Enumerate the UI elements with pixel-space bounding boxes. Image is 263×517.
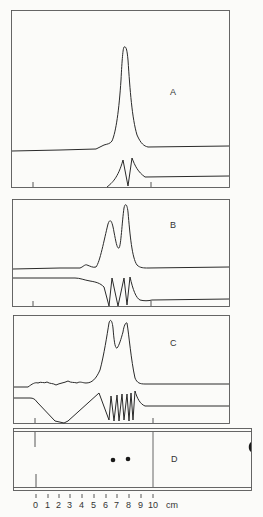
axis-label-4: 4 (79, 500, 84, 510)
axis-label-8: 8 (126, 500, 131, 510)
panel-b: B (13, 200, 230, 307)
axis-label-1: 1 (45, 500, 50, 510)
axis-label-2: 2 (56, 500, 61, 510)
panel-a-density-trace (12, 47, 229, 151)
chromatogram-figure: A B C D (0, 0, 263, 517)
panel-b-density-trace (13, 205, 229, 269)
panel-a-frame (12, 11, 230, 188)
panel-c-frame (14, 316, 230, 424)
edge-mark (249, 442, 251, 452)
panel-a: A (12, 11, 230, 188)
panel-b-label: B (170, 220, 176, 230)
axis-unit-label: cm (166, 500, 178, 510)
panel-a-derivative-trace (107, 158, 229, 187)
axis-label-9: 9 (138, 500, 143, 510)
axis-label-10: 10 (148, 500, 158, 510)
spot-1 (111, 458, 116, 463)
spot-2 (126, 457, 131, 462)
panel-c-derivative-trace (14, 391, 229, 423)
panel-b-derivative-trace (13, 277, 229, 306)
panel-c-density-trace (14, 320, 229, 387)
axis-label-5: 5 (91, 500, 96, 510)
x-axis: 0 1 2 3 4 5 6 7 8 9 10 cm (33, 494, 178, 510)
axis-label-0: 0 (33, 500, 38, 510)
panel-a-label: A (170, 87, 176, 97)
panel-d-frame (14, 429, 252, 491)
panel-d-label: D (171, 454, 178, 464)
axis-label-7: 7 (114, 500, 119, 510)
panel-c: C (14, 316, 230, 424)
panel-d: D (14, 429, 252, 491)
axis-label-6: 6 (103, 500, 108, 510)
axis-label-3: 3 (67, 500, 72, 510)
panel-c-label: C (170, 338, 177, 348)
